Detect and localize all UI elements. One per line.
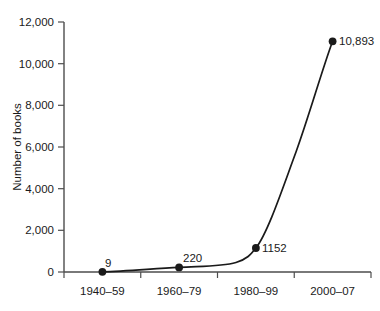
line-chart: 12,000 10,000 8,000 6,000 4,000 2,000 0 … bbox=[0, 0, 380, 311]
data-label-9: 9 bbox=[105, 257, 111, 269]
data-point-2000-07 bbox=[329, 37, 337, 45]
y-tick-label-10000: 10,000 bbox=[19, 58, 54, 70]
x-tick-label-2000-07: 2000–07 bbox=[310, 285, 355, 297]
chart-container: 12,000 10,000 8,000 6,000 4,000 2,000 0 … bbox=[0, 0, 380, 311]
series-line bbox=[102, 41, 332, 271]
data-label-10893: 10,893 bbox=[339, 35, 374, 47]
data-label-1152: 1152 bbox=[262, 242, 287, 254]
y-tick-label-6000: 6,000 bbox=[25, 141, 54, 153]
x-tick-label-1940-59: 1940–59 bbox=[80, 285, 125, 297]
x-tick-label-1960-79: 1960–79 bbox=[157, 285, 202, 297]
y-tick-label-12000: 12,000 bbox=[19, 16, 54, 28]
y-tick-label-2000: 2,000 bbox=[25, 224, 54, 236]
y-tick-label-8000: 8,000 bbox=[25, 99, 54, 111]
x-tick-label-1980-99: 1980–99 bbox=[234, 285, 279, 297]
data-label-220: 220 bbox=[183, 252, 202, 264]
data-point-1980-99 bbox=[252, 244, 260, 252]
y-tick-label-4000: 4,000 bbox=[25, 183, 54, 195]
data-point-1940-59 bbox=[99, 268, 107, 276]
data-point-1960-79 bbox=[175, 264, 183, 272]
y-tick-label-0: 0 bbox=[48, 266, 54, 278]
y-axis-title: Number of books bbox=[11, 103, 23, 191]
